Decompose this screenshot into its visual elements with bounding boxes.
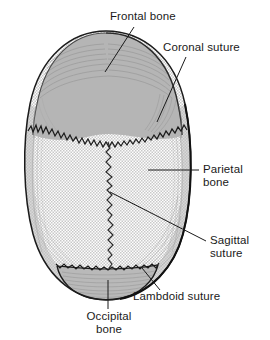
label-occipital-bone: Occipital bone xyxy=(78,310,140,336)
label-occipital-bone-line2: bone xyxy=(78,323,140,336)
label-sagittal-suture: Sagittal suture xyxy=(210,234,249,260)
anatomy-figure: Frontal bone Coronal suture Parietal bon… xyxy=(0,0,270,340)
label-parietal-bone-line1: Parietal xyxy=(203,163,243,176)
label-coronal-suture: Coronal suture xyxy=(163,41,240,54)
label-sagittal-suture-line2: suture xyxy=(210,247,249,260)
frontal-bone-region xyxy=(33,33,182,140)
label-occipital-bone-line1: Occipital xyxy=(78,310,140,323)
label-parietal-bone-line2: bone xyxy=(203,176,243,189)
label-frontal-bone: Frontal bone xyxy=(110,10,176,23)
label-parietal-bone: Parietal bone xyxy=(203,163,243,189)
label-sagittal-suture-line1: Sagittal xyxy=(210,234,249,247)
label-lambdoid-suture: Lambdoid suture xyxy=(133,290,220,303)
